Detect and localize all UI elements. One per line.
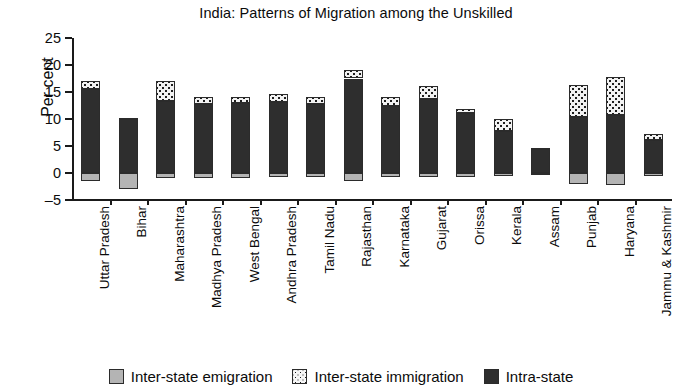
bar-segment-intra-state	[381, 106, 400, 173]
bar-segment-inter-state-emigration	[119, 173, 138, 189]
bar-segment-intra-state	[194, 104, 213, 173]
legend-label-immigration: Inter-state immigration	[314, 368, 463, 385]
x-axis-category-label: Punjab	[584, 206, 599, 248]
bar-segment-inter-state-immigration	[569, 85, 588, 117]
bar-segment-intra-state	[531, 149, 550, 173]
x-tick-mark	[410, 199, 412, 205]
bar-segment-inter-state-immigration	[194, 97, 213, 104]
bar-segment-inter-state-immigration	[344, 70, 363, 79]
bar-group	[456, 38, 475, 200]
x-tick-mark	[147, 199, 149, 205]
x-axis-category-label: Gujarat	[434, 206, 449, 250]
bar-segment-inter-state-emigration	[606, 173, 625, 185]
bar-segment-intra-state	[119, 119, 138, 173]
x-axis-labels: Uttar PradeshBiharMaharashtraMadhya Prad…	[72, 206, 672, 326]
bar-segment-inter-state-emigration	[381, 173, 400, 177]
bar-group	[644, 38, 663, 200]
y-tick-mark	[65, 172, 72, 174]
y-tick-mark	[65, 64, 72, 66]
x-axis-category-label: Tamil Nadu	[322, 206, 337, 274]
bar-segment-intra-state	[419, 99, 438, 173]
bar-group	[381, 38, 400, 200]
bar-segment-intra-state	[81, 89, 100, 173]
bar-segment-inter-state-emigration	[569, 173, 588, 184]
bar-segment-intra-state	[231, 103, 250, 173]
intra-state-swatch-icon	[484, 369, 499, 384]
bar-segment-inter-state-emigration	[231, 173, 250, 178]
x-tick-mark	[110, 199, 112, 205]
x-axis-category-label: Andhra Pradesh	[284, 206, 299, 304]
bar-segment-inter-state-emigration	[419, 173, 438, 177]
x-axis-category-label: Bihar	[134, 206, 149, 238]
x-tick-mark	[185, 199, 187, 205]
bar-segment-inter-state-immigration	[644, 134, 663, 139]
legend-item-intra-state: Intra-state	[484, 368, 574, 385]
y-tick-label: 20	[45, 58, 61, 73]
bar-segment-inter-state-emigration	[81, 173, 100, 181]
bar-segment-inter-state-immigration	[231, 97, 250, 103]
bar-segment-inter-state-immigration	[119, 118, 138, 120]
x-axis-category-label: Maharashtra	[172, 206, 187, 282]
x-axis-category-label: Jammu & Kashmir	[659, 206, 674, 316]
bar-group	[231, 38, 250, 200]
x-tick-mark	[597, 199, 599, 205]
bar-segment-inter-state-immigration	[606, 77, 625, 115]
bar-group	[306, 38, 325, 200]
y-tick-label: 25	[45, 31, 61, 46]
bar-group	[156, 38, 175, 200]
bar-segment-intra-state	[456, 113, 475, 173]
bar-group	[344, 38, 363, 200]
y-tick-mark	[65, 145, 72, 147]
x-axis-category-label: Assam	[547, 206, 562, 247]
bar-group	[606, 38, 625, 200]
legend-item-inter-state-immigration: Inter-state immigration	[292, 368, 463, 385]
bar-segment-intra-state	[494, 131, 513, 173]
y-tick-label: 10	[45, 112, 61, 127]
plot-area: –50510152025	[72, 38, 672, 200]
x-axis-category-label: Rajasthan	[359, 206, 374, 267]
x-axis-category-label: Haryana	[622, 206, 637, 257]
bar-segment-inter-state-immigration	[81, 81, 100, 90]
y-tick-mark	[65, 91, 72, 93]
x-tick-mark	[297, 199, 299, 205]
bar-segment-inter-state-immigration	[494, 119, 513, 131]
y-tick-label: –5	[45, 193, 61, 208]
bar-group	[269, 38, 288, 200]
legend-label-intra-state: Intra-state	[506, 368, 574, 385]
x-axis-category-label: Kerala	[509, 206, 524, 245]
bar-segment-inter-state-immigration	[419, 86, 438, 99]
y-tick-mark	[65, 118, 72, 120]
x-axis-category-label: Orissa	[472, 206, 487, 245]
y-tick-label: 15	[45, 85, 61, 100]
legend-label-emigration: Inter-state emigration	[131, 368, 273, 385]
y-axis-spine	[72, 38, 74, 200]
bar-group	[194, 38, 213, 200]
x-tick-mark	[485, 199, 487, 205]
bar-group	[419, 38, 438, 200]
bar-segment-inter-state-immigration	[531, 148, 550, 150]
bar-segment-inter-state-immigration	[456, 109, 475, 113]
x-axis-category-label: Uttar Pradesh	[97, 206, 112, 289]
bar-segment-inter-state-emigration	[494, 173, 513, 176]
bar-segment-inter-state-emigration	[269, 173, 288, 177]
x-tick-mark	[635, 199, 637, 205]
legend-item-inter-state-emigration: Inter-state emigration	[109, 368, 273, 385]
bar-segment-intra-state	[606, 115, 625, 173]
bar-segment-inter-state-emigration	[344, 173, 363, 181]
bar-group	[569, 38, 588, 200]
chart-legend: Inter-state emigration Inter-state immig…	[0, 368, 682, 385]
x-tick-mark	[447, 199, 449, 205]
bar-group	[494, 38, 513, 200]
x-tick-mark	[260, 199, 262, 205]
y-tick-mark	[65, 199, 72, 201]
x-axis-category-label: West Bengal	[247, 206, 262, 282]
bar-segment-inter-state-emigration	[194, 173, 213, 178]
chart-title: India: Patterns of Migration among the U…	[0, 5, 682, 21]
bar-segment-inter-state-emigration	[456, 173, 475, 177]
emigration-swatch-icon	[109, 369, 124, 384]
bar-segment-inter-state-emigration	[306, 173, 325, 177]
bar-segment-intra-state	[156, 101, 175, 173]
y-tick-mark	[65, 37, 72, 39]
x-tick-mark	[560, 199, 562, 205]
x-tick-mark	[372, 199, 374, 205]
